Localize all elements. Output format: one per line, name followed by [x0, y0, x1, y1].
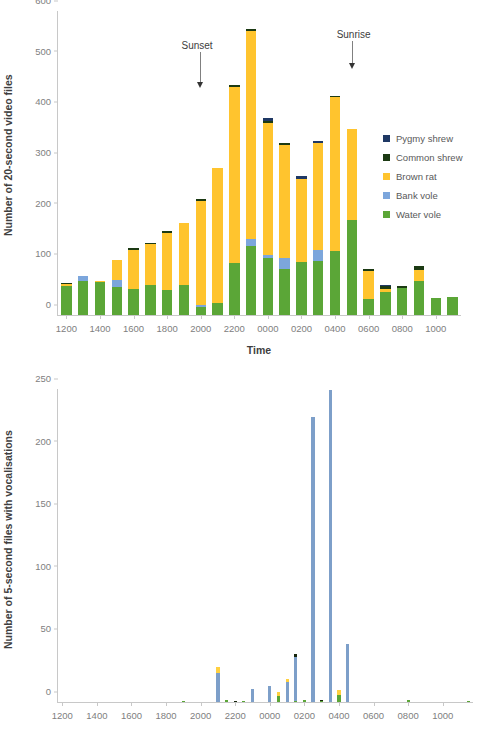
- bar-segment-brown-rat: [294, 657, 297, 701]
- legend-swatch-icon: [383, 173, 390, 180]
- bar-segment-water-vole: [397, 288, 407, 315]
- bar-segment-water-vole: [414, 281, 424, 315]
- bottom-y-tick: 200: [35, 435, 58, 446]
- top-legend-item[interactable]: Brown rat: [383, 171, 463, 182]
- bar-segment-brown-rat: [268, 686, 271, 702]
- top-legend-item[interactable]: Pygmy shrew: [383, 133, 463, 144]
- bottom-x-tick-mark: [166, 702, 167, 706]
- bar-2100: [216, 667, 219, 702]
- bottom-x-tick-mark: [374, 702, 375, 706]
- bottom-x-tick-mark: [443, 702, 444, 706]
- bar-0100: [286, 679, 289, 702]
- bar-segment-water-vole: [467, 701, 470, 702]
- bar-1000: [431, 298, 441, 315]
- bar-2300: [246, 29, 256, 315]
- bottom-x-tick-mark: [62, 702, 63, 706]
- bottom-y-tick: 0: [46, 686, 58, 697]
- bar-segment-water-vole: [320, 701, 323, 702]
- vocalisation-files-chart: Number of 5-second files with vocalisati…: [0, 370, 493, 729]
- bottom-x-tick-mark: [97, 702, 98, 706]
- bar-1600: [128, 248, 138, 315]
- top-y-tick: 0: [46, 299, 58, 310]
- bar-segment-brown-rat: [347, 129, 357, 220]
- bar-0400: [337, 689, 340, 702]
- bar-segment-water-vole: [431, 298, 441, 315]
- bar-segment-bank-vole: [279, 258, 289, 269]
- bar-segment-brown-rat: [414, 270, 424, 281]
- bar-segment-water-vole: [229, 263, 239, 315]
- top-x-axis-title: Time: [57, 344, 461, 356]
- bar-1900: [182, 701, 185, 702]
- bottom-y-axis-title: Number of 5-second files with vocalisati…: [2, 390, 14, 690]
- bar-segment-brown-rat: [251, 689, 254, 702]
- bar-0300: [313, 141, 323, 315]
- bar-segment-water-vole: [196, 307, 206, 315]
- bar-segment-water-vole: [145, 285, 155, 315]
- bar-segment-water-vole: [246, 246, 256, 315]
- bar-segment-brown-rat: [212, 168, 222, 304]
- bar-0430: [346, 644, 349, 702]
- bar-segment-water-vole: [447, 297, 457, 315]
- top-legend-item[interactable]: Water vole: [383, 209, 463, 220]
- bar-segment-brown-rat: [246, 31, 256, 239]
- bar-segment-brown-rat: [112, 260, 122, 280]
- top-y-tick: 600: [35, 0, 58, 6]
- bar-segment-water-vole: [263, 258, 273, 315]
- bar-segment-water-vole: [296, 262, 306, 315]
- bar-0000: [263, 118, 273, 315]
- top-x-tick-mark: [268, 315, 269, 319]
- bar-1400: [95, 281, 105, 315]
- bar-segment-brown-rat: [162, 233, 172, 290]
- bar-0700: [380, 285, 390, 315]
- bar-segment-water-vole: [279, 269, 289, 315]
- bar-segment-water-vole: [363, 299, 373, 315]
- bottom-y-tick: 150: [35, 498, 58, 509]
- bar-segment-water-vole: [212, 303, 222, 315]
- annotation-sunset: Sunset: [182, 40, 213, 51]
- bar-0500: [347, 129, 357, 315]
- bar-1100: [447, 297, 457, 315]
- bottom-x-tick-mark: [304, 702, 305, 706]
- bottom-x-tick-mark: [408, 702, 409, 706]
- top-legend-label: Bank vole: [396, 190, 438, 201]
- bar-1800: [162, 231, 172, 315]
- annotation-arrowhead-sunset: [197, 82, 203, 88]
- top-x-tick-mark: [436, 315, 437, 319]
- bar-0600: [363, 269, 373, 315]
- bottom-x-tick-mark: [270, 702, 271, 706]
- top-legend-label: Pygmy shrew: [396, 133, 453, 144]
- bar-segment-water-vole: [95, 282, 105, 315]
- bar-0200: [296, 176, 306, 315]
- bar-0300: [320, 700, 323, 703]
- bar-segment-water-vole: [380, 292, 390, 315]
- top-legend-label: Brown rat: [396, 171, 437, 182]
- bottom-x-tick-mark: [339, 702, 340, 706]
- top-x-tick-mark: [369, 315, 370, 319]
- top-y-tick: 300: [35, 147, 58, 158]
- bar-1200: [61, 283, 71, 315]
- top-legend-label: Common shrew: [396, 152, 463, 163]
- bar-segment-water-vole: [78, 281, 88, 315]
- bar-0130: [294, 654, 297, 702]
- top-y-tick: 100: [35, 248, 58, 259]
- bar-segment-brown-rat: [128, 250, 138, 289]
- bar-segment-water-vole: [182, 701, 185, 702]
- bar-segment-water-vole: [313, 261, 323, 315]
- bar-segment-brown-rat: [145, 244, 155, 285]
- top-legend-item[interactable]: Common shrew: [383, 152, 463, 163]
- bar-segment-brown-rat: [196, 201, 206, 305]
- bar-segment-brown-rat: [279, 145, 289, 259]
- bar-0330: [329, 390, 332, 702]
- bar-0100: [279, 143, 289, 315]
- top-x-tick-mark: [301, 315, 302, 319]
- top-x-tick-mark: [66, 315, 67, 319]
- bar-segment-brown-rat: [263, 123, 273, 255]
- top-y-tick: 200: [35, 197, 58, 208]
- bar-0900: [414, 266, 424, 315]
- bar-0400: [330, 96, 340, 315]
- legend-swatch-icon: [383, 211, 390, 218]
- top-legend-item[interactable]: Bank vole: [383, 190, 463, 201]
- bar-segment-water-vole: [128, 289, 138, 315]
- bar-segment-brown-rat: [296, 179, 306, 263]
- bar-segment-brown-rat: [313, 143, 323, 250]
